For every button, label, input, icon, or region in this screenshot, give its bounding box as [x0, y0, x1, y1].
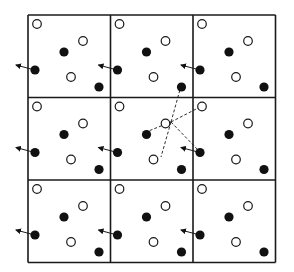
open-particle-icon [33, 20, 42, 29]
filled-particle-icon [94, 247, 103, 256]
filled-particle-icon [224, 47, 233, 56]
filled-particle-icon [224, 130, 233, 139]
open-particle-icon [161, 202, 170, 211]
filled-particle-icon [177, 247, 186, 256]
filled-particle-icon [94, 165, 103, 174]
open-particle-icon [232, 238, 241, 247]
open-particle-icon [79, 119, 88, 128]
open-particle-icon [149, 238, 158, 247]
interaction-line [171, 106, 202, 122]
particles [16, 20, 269, 257]
filled-particle-icon [259, 82, 268, 91]
filled-particle-icon [59, 212, 68, 221]
open-particle-icon [232, 155, 241, 164]
filled-particle-icon [259, 165, 268, 174]
open-particle-icon [33, 102, 42, 111]
filled-particle-icon [142, 212, 151, 221]
open-particle-icon [244, 202, 253, 211]
open-particle-icon [149, 73, 158, 82]
open-particle-icon [67, 155, 76, 164]
filled-particle-icon [94, 82, 103, 91]
open-particle-icon [67, 73, 76, 82]
open-particle-icon [232, 73, 241, 82]
interaction-line [171, 86, 181, 122]
filled-particle-icon [142, 47, 151, 56]
filled-particle-icon [59, 130, 68, 139]
open-particle-icon [198, 102, 207, 111]
open-particle-icon [149, 155, 158, 164]
filled-particle-icon [195, 148, 204, 157]
filled-particle-icon [59, 47, 68, 56]
open-particle-icon [79, 37, 88, 46]
filled-particle-icon [177, 165, 186, 174]
open-particle-icon [198, 20, 207, 29]
periodic-boundary-diagram [0, 0, 294, 272]
filled-particle-icon [30, 65, 39, 74]
filled-particle-icon [195, 230, 204, 239]
filled-particle-icon [259, 247, 268, 256]
open-particle-icon [115, 185, 124, 194]
filled-particle-icon [224, 212, 233, 221]
filled-particle-icon [113, 148, 122, 157]
open-particle-icon [161, 37, 170, 46]
open-particle-icon [67, 238, 76, 247]
open-particle-icon [79, 202, 88, 211]
filled-particle-icon [113, 65, 122, 74]
filled-particle-icon [142, 130, 151, 139]
filled-particle-icon [195, 65, 204, 74]
open-particle-icon [115, 20, 124, 29]
open-particle-icon [33, 185, 42, 194]
filled-particle-icon [30, 230, 39, 239]
filled-particle-icon [177, 82, 186, 91]
open-particle-icon [244, 119, 253, 128]
open-particle-icon [115, 102, 124, 111]
open-particle-icon [161, 119, 170, 128]
filled-particle-icon [113, 230, 122, 239]
filled-particle-icon [30, 148, 39, 157]
open-particle-icon [198, 185, 207, 194]
interaction-line [171, 122, 200, 152]
open-particle-icon [244, 37, 253, 46]
